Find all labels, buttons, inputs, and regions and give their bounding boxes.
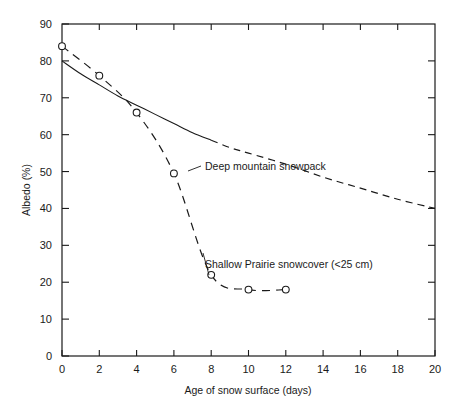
plot-frame — [62, 24, 435, 356]
data-point-marker — [171, 170, 178, 177]
right-axis-ticks — [428, 61, 435, 319]
x-tick-label-20: 20 — [429, 363, 441, 375]
annotation-deep-mountain-snowpack: Deep mountain snowpack — [205, 160, 327, 172]
data-point-marker — [245, 286, 252, 293]
leader-line-deep-mountain-snowpack — [188, 166, 201, 171]
y-tick-label-80: 80 — [40, 55, 52, 67]
data-point-marker — [59, 43, 66, 50]
y-tick-label-20: 20 — [40, 276, 52, 288]
y-axis-ticks: 0102030405060708090 — [40, 18, 69, 362]
x-tick-label-0: 0 — [59, 363, 65, 375]
y-tick-label-70: 70 — [40, 92, 52, 104]
top-axis-ticks — [99, 24, 397, 30]
y-axis-title: Albedo (%) — [20, 164, 32, 216]
y-tick-label-40: 40 — [40, 202, 52, 214]
x-tick-label-12: 12 — [280, 363, 292, 375]
x-tick-label-2: 2 — [96, 363, 102, 375]
y-tick-label-0: 0 — [46, 350, 52, 362]
x-axis-title: Age of snow surface (days) — [184, 384, 311, 396]
x-tick-label-14: 14 — [317, 363, 329, 375]
x-tick-label-16: 16 — [354, 363, 366, 375]
data-point-marker — [282, 286, 289, 293]
y-tick-label-10: 10 — [40, 313, 52, 325]
y-tick-label-90: 90 — [40, 18, 52, 30]
x-axis-ticks: 02468101214161820 — [59, 350, 441, 375]
albedo-vs-snow-age-chart: 02468101214161820 0102030405060708090 De… — [0, 0, 464, 410]
annotation-shallow-prairie-snowcover: Shallow Prairie snowcover (<25 cm) — [205, 258, 373, 270]
data-point-marker — [133, 109, 140, 116]
series-line-deep-mountain-snowpack-dashed — [211, 140, 435, 208]
y-tick-label-60: 60 — [40, 129, 52, 141]
x-tick-label-4: 4 — [134, 363, 140, 375]
data-point-marker — [96, 72, 103, 79]
chart-svg: 02468101214161820 0102030405060708090 De… — [0, 0, 464, 410]
y-tick-label-30: 30 — [40, 239, 52, 251]
y-tick-label-50: 50 — [40, 166, 52, 178]
x-tick-label-6: 6 — [171, 363, 177, 375]
x-tick-label-10: 10 — [242, 363, 254, 375]
x-tick-label-8: 8 — [208, 363, 214, 375]
series-line-deep-mountain-snowpack-solid — [62, 61, 211, 140]
x-tick-label-18: 18 — [392, 363, 404, 375]
